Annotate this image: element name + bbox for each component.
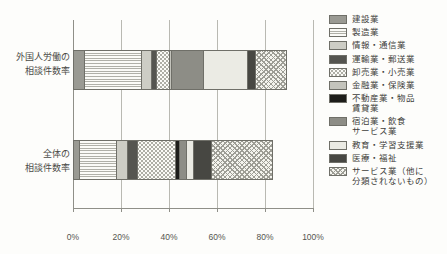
x-tick-label-20: 20%: [112, 232, 129, 242]
segment-iryo: [248, 51, 256, 89]
legend-item-service[interactable]: サービス業（他に 分類されないもの）: [329, 166, 447, 186]
x-tick-0: [73, 208, 74, 212]
segment-kensetsu: [73, 51, 85, 89]
legend-item-joho[interactable]: 情報・通信業: [329, 40, 447, 50]
segment-kensetsu: [73, 141, 80, 179]
segment-service: [256, 51, 287, 89]
x-tick-label-80: 80%: [256, 232, 273, 242]
x-tick-label-100: 100%: [302, 232, 324, 242]
stacked-bar-chart: 0% 20% 40% 60% 80% 100% 外国人労働の 相談件数率 全体の…: [0, 0, 447, 254]
plot-area: 0% 20% 40% 60% 80% 100%: [73, 20, 313, 208]
legend-swatch-icon: [329, 15, 347, 24]
y-category-label: 全体の 相談件数率: [25, 147, 70, 175]
segment-kyoiku: [204, 51, 248, 89]
bar-overall: [73, 140, 273, 180]
segment-seizo: [85, 51, 142, 89]
legend-label: 運輸業・郵送業: [352, 54, 415, 64]
segment-service: [212, 141, 273, 179]
legend-item-kensetsu[interactable]: 建設業: [329, 14, 447, 24]
gridline-100: [313, 20, 314, 208]
legend-label: 教育・学習支援業: [352, 140, 424, 150]
segment-kyoiku: [187, 141, 194, 179]
x-axis-line: [73, 208, 313, 209]
x-tick-label-40: 40%: [160, 232, 177, 242]
legend-label: 建設業: [352, 14, 379, 24]
legend-item-iryo[interactable]: 医療・福祉: [329, 153, 447, 163]
legend-swatch-icon: [329, 154, 347, 163]
x-tick-40: [169, 208, 170, 212]
legend-item-shukuhaku[interactable]: 宿泊業・飲食 サービス業: [329, 116, 447, 136]
legend-item-kinyu[interactable]: 金融業・保険業: [329, 80, 447, 90]
legend-swatch-icon: [329, 28, 347, 37]
bar-foreign-worker: [73, 50, 287, 90]
legend-swatch-icon: [329, 94, 347, 103]
segment-seizo: [80, 141, 117, 179]
segment-oroshiuri: [157, 51, 170, 89]
legend-swatch-icon: [329, 167, 347, 176]
segment-unyu: [128, 141, 138, 179]
legend-swatch-icon: [329, 41, 347, 50]
legend: 建設業 製造業 情報・通信業 運輸業・郵送業 卸売業・小売業 金融業・保険業 不…: [329, 14, 447, 189]
legend-label: 卸売業・小売業: [352, 67, 415, 77]
segment-oroshiuri: [138, 141, 176, 179]
legend-item-kyoiku[interactable]: 教育・学習支援業: [329, 140, 447, 150]
x-tick-80: [265, 208, 266, 212]
segment-shukuhaku: [172, 51, 204, 89]
x-tick-100: [313, 208, 314, 212]
legend-swatch-icon: [329, 141, 347, 150]
legend-swatch-icon: [329, 55, 347, 64]
legend-label: 製造業: [352, 27, 379, 37]
legend-label: 不動産業・物品 賃貸業: [352, 93, 415, 113]
x-tick-label-0: 0%: [67, 232, 79, 242]
legend-label: 医療・福祉: [352, 153, 397, 163]
legend-label: 情報・通信業: [352, 40, 406, 50]
legend-item-fudosan[interactable]: 不動産業・物品 賃貸業: [329, 93, 447, 113]
legend-swatch-icon: [329, 117, 347, 126]
legend-item-seizo[interactable]: 製造業: [329, 27, 447, 37]
legend-label: 金融業・保険業: [352, 80, 415, 90]
legend-label: サービス業（他に 分類されないもの）: [352, 166, 433, 186]
segment-joho: [117, 141, 128, 179]
x-tick-60: [217, 208, 218, 212]
legend-swatch-icon: [329, 68, 347, 77]
segment-joho: [142, 51, 152, 89]
segment-shukuhaku: [180, 141, 187, 179]
legend-swatch-icon: [329, 81, 347, 90]
x-tick-20: [121, 208, 122, 212]
legend-item-unyu[interactable]: 運輸業・郵送業: [329, 54, 447, 64]
segment-iryo: [194, 141, 212, 179]
x-tick-label-60: 60%: [208, 232, 225, 242]
legend-label: 宿泊業・飲食 サービス業: [352, 116, 406, 136]
legend-item-oroshiuri[interactable]: 卸売業・小売業: [329, 67, 447, 77]
y-category-label: 外国人労働の 相談件数率: [16, 50, 70, 78]
